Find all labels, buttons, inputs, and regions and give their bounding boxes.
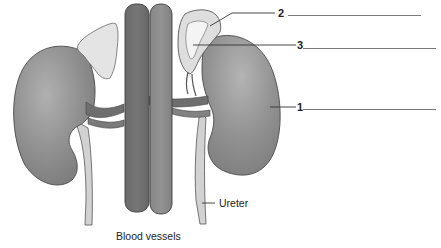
label-number-2: 2 (278, 8, 284, 19)
vein (125, 4, 149, 212)
right-kidney (202, 35, 280, 175)
answer-blank-3[interactable] (303, 48, 436, 49)
adrenal-vein (187, 72, 197, 96)
label-number-3: 3 (297, 40, 303, 51)
blood-vessels-label: Blood vessels (116, 231, 181, 242)
answer-blank-1[interactable] (303, 109, 436, 110)
artery (150, 4, 172, 214)
answer-blank-2[interactable] (288, 15, 421, 16)
left-kidney (14, 46, 95, 185)
label-number-1: 1 (297, 102, 303, 113)
ureter-label: Ureter (219, 198, 248, 209)
right-ureter (195, 112, 206, 224)
kidney-diagram (0, 0, 441, 248)
